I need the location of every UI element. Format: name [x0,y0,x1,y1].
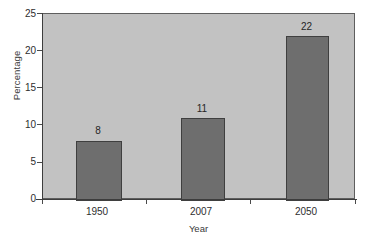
x-tick-label-2007: 2007 [166,206,236,217]
x-tick-mark-0 [42,200,43,204]
x-axis-title: Year [42,223,355,234]
bar-1950 [76,141,122,201]
bar-value-label-2050: 22 [285,21,328,32]
y-axis-line [42,13,43,200]
x-tick-mark-1 [146,200,147,204]
bar-2007 [181,118,225,201]
bar-value-label-1950: 8 [75,125,121,136]
x-tick-label-2050: 2050 [271,206,341,217]
bar-value-label-2007: 11 [180,103,224,114]
x-tick-label-1950: 1950 [62,206,132,217]
x-tick-mark-3 [355,200,356,204]
bar-chart-figure: Percentage 25 20 15 10 5 0 8 11 22 1950 … [0,0,369,246]
x-axis-line [36,199,357,200]
x-tick-mark-2 [250,200,251,204]
bar-2050 [286,36,329,201]
